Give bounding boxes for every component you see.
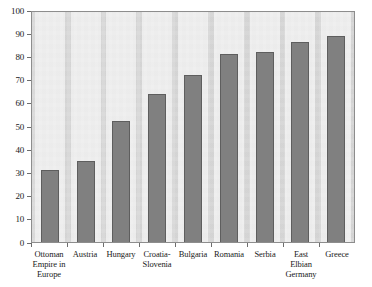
x-axis-tick-mark <box>283 243 284 247</box>
x-axis-tick <box>31 243 67 247</box>
x-axis-labels: OttomanEmpire inEuropeAustriaHungaryCroa… <box>31 249 355 279</box>
bar-chart: 0102030405060708090100 OttomanEmpire inE… <box>0 0 372 287</box>
bar-slot <box>104 12 140 242</box>
y-axis-tick-label: 10 <box>15 215 27 224</box>
x-axis-tick <box>247 243 283 247</box>
bar <box>291 42 309 242</box>
x-axis-label: Greece <box>319 249 355 259</box>
x-axis-label-line: Hungary <box>104 249 138 259</box>
bar-slot <box>68 12 104 242</box>
x-axis-tick <box>175 243 211 247</box>
bar <box>41 170 59 242</box>
x-axis-tick-mark <box>211 243 212 247</box>
x-axis-tick <box>139 243 175 247</box>
x-axis-label: Hungary <box>103 249 139 259</box>
x-axis-ticks <box>31 243 355 247</box>
bar-slot <box>247 12 283 242</box>
bar <box>148 94 166 242</box>
x-axis-tick-mark <box>67 243 68 247</box>
bar <box>256 52 274 242</box>
y-axis-tick-label: 0 <box>20 239 27 248</box>
bar-slot <box>175 12 211 242</box>
plot-area <box>31 11 355 243</box>
bar-slot <box>282 12 318 242</box>
x-axis-label-line: Bulgaria <box>176 249 210 259</box>
x-axis-tick <box>103 243 139 247</box>
x-axis-label-line: Empire in <box>32 259 66 269</box>
y-axis-tick-label: 100 <box>11 7 27 16</box>
x-axis-label: Bulgaria <box>175 249 211 259</box>
y-axis-tick-label: 80 <box>15 53 27 62</box>
x-axis-label: Romania <box>211 249 247 259</box>
bar-slot <box>139 12 175 242</box>
x-axis-tick <box>319 243 355 247</box>
y-axis-tick-label: 20 <box>15 192 27 201</box>
bar-slot <box>211 12 247 242</box>
x-axis-label-line: Germany <box>284 269 318 279</box>
y-axis-tick-label: 30 <box>15 169 27 178</box>
x-axis-label-line: Ottoman <box>32 249 66 259</box>
x-axis-tick-mark <box>319 243 320 247</box>
x-axis-label-line: East Elbian <box>284 249 318 269</box>
x-axis-tick-mark <box>139 243 140 247</box>
x-axis-tick <box>211 243 247 247</box>
x-axis-tick <box>283 243 319 247</box>
x-axis-label-line: Slovenia <box>140 259 174 269</box>
bar <box>327 36 345 242</box>
bar-slot <box>32 12 68 242</box>
y-axis-tick-label: 90 <box>15 30 27 39</box>
bar-slot <box>318 12 354 242</box>
x-axis-label: East ElbianGermany <box>283 249 319 279</box>
x-axis-tick-mark <box>175 243 176 247</box>
y-axis: 0102030405060708090100 <box>0 11 31 243</box>
bar <box>184 75 202 242</box>
y-axis-tick-label: 50 <box>15 123 27 132</box>
y-axis-tick-label: 70 <box>15 76 27 85</box>
bar <box>112 121 130 242</box>
x-axis-tick <box>67 243 103 247</box>
x-axis-label-line: Europe <box>32 269 66 279</box>
x-axis-label-line: Romania <box>212 249 246 259</box>
x-axis-label-line: Croatia- <box>140 249 174 259</box>
x-axis-tick-mark <box>103 243 104 247</box>
bar <box>77 161 95 242</box>
x-axis-label-line: Serbia <box>248 249 282 259</box>
x-axis-label: Serbia <box>247 249 283 259</box>
bar <box>220 54 238 242</box>
x-axis-tick-mark <box>31 243 32 247</box>
y-axis-tick-label: 40 <box>15 146 27 155</box>
x-axis-label-line: Greece <box>320 249 354 259</box>
x-axis-label-line: Austria <box>68 249 102 259</box>
x-axis-label: Austria <box>67 249 103 259</box>
x-axis-tick-mark <box>247 243 248 247</box>
x-axis-label: Croatia-Slovenia <box>139 249 175 269</box>
bars-layer <box>32 12 354 242</box>
y-axis-tick-label: 60 <box>15 99 27 108</box>
x-axis-label: OttomanEmpire inEurope <box>31 249 67 279</box>
